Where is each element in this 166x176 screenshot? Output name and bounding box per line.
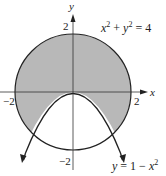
y-tick-2: 2 <box>63 20 69 32</box>
circle-equation-label: x2 + y2 = 4 <box>100 20 151 35</box>
parabola-equation-label: y = 1 − x2 <box>111 158 158 173</box>
x-axis-arrow-icon <box>140 90 148 95</box>
x-tick-2: 2 <box>134 95 140 107</box>
y-axis-label: y <box>68 0 74 12</box>
y-tick-neg2: −2 <box>59 155 71 167</box>
diagram-canvas: y x 2 −2 −2 2 x2 + y2 = 4 y = 1 − x2 <box>0 0 166 176</box>
x-tick-neg2: −2 <box>3 95 15 107</box>
parabola-left-arrow-icon <box>20 154 27 163</box>
x-axis-label: x <box>149 86 155 98</box>
y-axis-arrow-icon <box>71 14 76 22</box>
